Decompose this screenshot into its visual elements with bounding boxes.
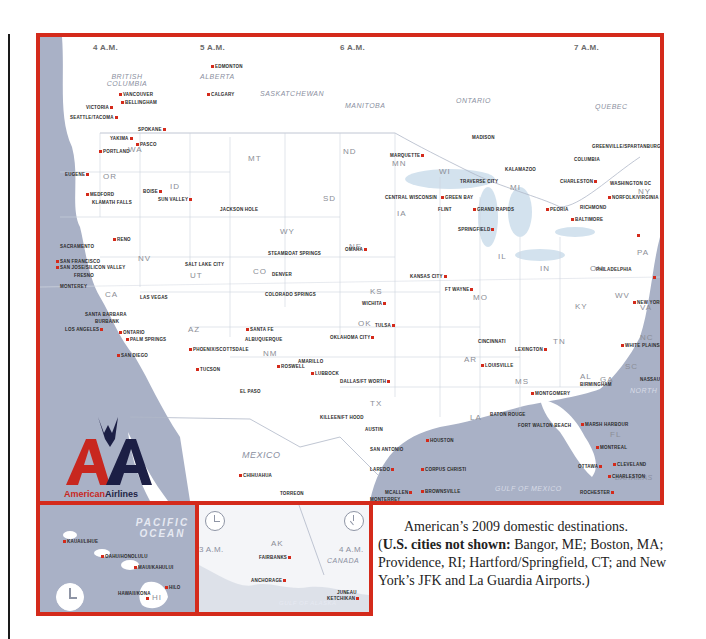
city-marker: BIRMINGHAM	[580, 382, 612, 387]
city-marker: CLEVELAND	[612, 462, 646, 467]
city-marker: AMARILLO	[298, 359, 323, 364]
city-marker: SAN ANTONIO	[370, 447, 403, 452]
city-marker: VANCOUVER	[118, 92, 153, 97]
city-marker: MEDFORD	[85, 192, 114, 197]
state-label: UT	[190, 271, 203, 280]
city-marker: MONTGOMERY	[530, 391, 570, 396]
city-marker: SPOKANE	[138, 127, 167, 132]
city-marker: GREEN BAY	[440, 195, 473, 200]
state-label: MS	[515, 377, 529, 386]
city-marker: PALM SPRINGS	[125, 337, 166, 342]
city-marker: TUCSON	[195, 367, 220, 372]
state-label: MO	[473, 293, 488, 302]
state-label: NV	[138, 254, 151, 263]
city-marker: KAUAI/LIHUE	[62, 539, 98, 544]
state-label: AK	[271, 539, 284, 548]
city-marker: WICHITA	[362, 301, 387, 306]
state-label: OR	[103, 172, 117, 181]
city-marker	[652, 275, 657, 280]
city-marker: MARQUETTE	[390, 153, 425, 158]
city-marker: MONTEREY	[60, 284, 87, 289]
city-marker: SAN FRANCISCO	[55, 259, 100, 264]
city-marker: FRESNO	[74, 273, 94, 278]
city-marker: SALT LAKE CITY	[185, 262, 224, 267]
city-marker: NORFOLK/VIRGINIA BEACH	[607, 195, 664, 200]
state-label: IL	[498, 252, 507, 261]
city-marker: NASSAU	[640, 377, 660, 382]
map-caption: American’s 2009 domestic destinations. (…	[378, 518, 700, 590]
region-label: BRITISH COLUMBIA	[102, 73, 152, 87]
city-marker: PASCO	[135, 142, 157, 147]
state-label: OK	[358, 319, 372, 328]
state-label: KY	[575, 302, 588, 311]
state-label: AR	[464, 355, 477, 364]
city-marker: WASHINGTON DC	[610, 181, 651, 186]
state-label: WV	[615, 291, 630, 300]
city-marker: MAUI/KAHULUI	[133, 565, 173, 570]
city-marker: TORREON	[280, 491, 304, 496]
region-label: MEXICO	[242, 450, 281, 460]
region-label: QUEBEC	[595, 103, 628, 110]
city-marker: ROCHESTER	[580, 490, 615, 495]
hawaii-alaska-inset: PACIFIC OCEAN KAUAI/LIHUE OAHU/HONOLULU …	[36, 505, 373, 616]
state-label: IA	[397, 209, 407, 218]
state-label: NC	[640, 333, 654, 342]
city-marker: HOUSTON	[425, 438, 454, 443]
state-label: KS	[370, 287, 383, 296]
city-marker: STEAMBOAT SPRINGS	[268, 251, 321, 256]
city-marker: EUGENE	[65, 172, 90, 177]
city-marker: RICHMOND	[580, 205, 606, 210]
city-marker: LOS ANGELES	[65, 327, 104, 332]
state-label: HI	[152, 593, 162, 602]
city-marker: CHIHUAHUA	[238, 473, 272, 478]
city-marker: KILLEEN/FT HOOD	[320, 415, 364, 420]
city-marker: WHITE PLAINS/WESTCHESTER COUNTY	[620, 343, 664, 348]
city-marker: BATON ROUGE	[490, 412, 526, 417]
city-marker: KETCHIKAN	[327, 596, 360, 601]
city-marker: MARSH HARBOUR	[580, 422, 628, 427]
city-marker: GRAND RAPIDS	[472, 207, 514, 212]
state-label: ID	[170, 182, 180, 191]
city-marker: LOUISVILLE	[480, 363, 514, 368]
city-marker: MONTREAL	[595, 445, 627, 450]
region-label: SASKATCHEWAN	[260, 90, 324, 97]
city-marker: LAS VEGAS	[140, 295, 168, 300]
city-marker: YAKIMA	[110, 136, 134, 141]
timezone-label: 4 A.M.	[339, 545, 363, 554]
caption-title: American’s 2009 domestic destinations.	[378, 518, 700, 536]
city-marker: NEW YORK	[632, 300, 663, 305]
state-label: ND	[343, 147, 357, 156]
region-label: CANADA	[327, 557, 359, 564]
city-marker: HILO	[164, 585, 181, 590]
city-marker: BROWNSVILLE	[420, 489, 460, 494]
state-label: SD	[323, 194, 336, 203]
city-marker: KANSAS CITY	[410, 274, 448, 279]
city-marker: PEORIA	[545, 207, 568, 212]
city-marker: ROSWELL	[276, 364, 305, 369]
city-marker: EL PASO	[240, 389, 261, 394]
city-marker: VICTORIA	[86, 105, 114, 110]
region-label: NORTH	[630, 387, 657, 394]
city-marker: KALAMAZOO	[505, 167, 536, 172]
city-marker: OMAHA	[345, 247, 368, 252]
state-label: FL	[610, 430, 621, 439]
timezone-label: 6 A.M.	[340, 43, 365, 52]
city-marker: SAN JOSE/SILICON VALLEY	[55, 265, 126, 270]
city-marker: SANTA FE	[245, 327, 274, 332]
state-label: MI	[510, 183, 521, 192]
city-marker: CALGARY	[206, 92, 234, 97]
city-marker: PORTLAND	[98, 149, 130, 154]
city-marker: CINCINNATI	[478, 339, 506, 344]
timezone-label: 5 A.M.	[200, 43, 225, 52]
city-marker: JUNEAU	[337, 590, 357, 595]
city-marker: FAIRBANKS	[259, 555, 292, 560]
city-marker: OTTAWA	[578, 464, 603, 469]
city-marker: TRAVERSE CITY	[460, 179, 498, 184]
state-label: NM	[263, 349, 277, 358]
clock-icon	[205, 511, 225, 531]
state-label: CO	[253, 267, 267, 276]
city-marker	[636, 233, 641, 238]
city-marker: CENTRAL WISCONSIN	[385, 195, 437, 200]
page-margin-rule	[8, 34, 10, 639]
city-marker: FLINT	[438, 207, 452, 212]
